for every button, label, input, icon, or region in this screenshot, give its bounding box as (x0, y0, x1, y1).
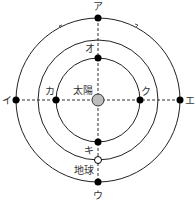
sun (92, 94, 104, 106)
point-o (95, 55, 102, 62)
label-o: オ (85, 43, 95, 54)
point-u (95, 179, 102, 186)
label-e: エ (185, 95, 195, 106)
label-sun: 太陽 (73, 84, 93, 96)
point-i (13, 97, 20, 104)
point-ki (95, 139, 102, 146)
point-ku (137, 97, 144, 104)
label-a: ア (93, 1, 103, 12)
earth (95, 157, 102, 164)
label-ku: ク (141, 86, 151, 97)
label-ki: キ (84, 145, 94, 156)
label-u: ウ (93, 190, 103, 201)
point-e (177, 97, 184, 104)
point-ka (53, 97, 60, 104)
orbit-diagram: ア イ ウ エ オ カ キ ク 太陽 地球 (0, 0, 196, 203)
label-earth: 地球 (74, 164, 94, 176)
label-ka: カ (45, 86, 55, 97)
point-a (95, 15, 102, 22)
label-i: イ (2, 95, 12, 106)
